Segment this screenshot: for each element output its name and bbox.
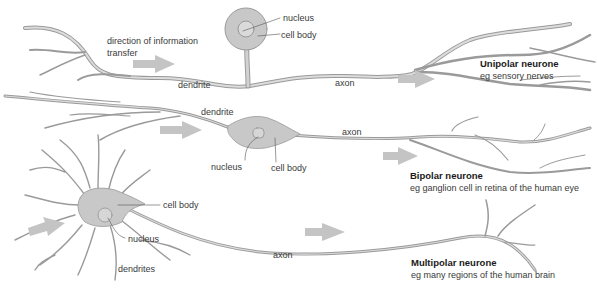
multipolar-cell-body	[78, 188, 145, 226]
label-bipolar-cell-body: cell body	[271, 163, 307, 173]
label-direction-line1: direction of information	[107, 36, 198, 46]
neurone-types-diagram: direction of information transfer nucleu…	[0, 0, 597, 294]
arrow-icon	[133, 55, 175, 73]
label-direction-line2: transfer	[107, 48, 138, 58]
arrow-icon	[160, 121, 202, 139]
label-unipolar-nucleus: nucleus	[283, 13, 314, 23]
bipolar-title: Bipolar neurone	[410, 170, 483, 181]
label-bipolar-dendrite: dendrite	[201, 107, 234, 117]
label-multipolar-axon: axon	[273, 250, 293, 260]
label-multipolar-cell-body: cell body	[163, 200, 199, 210]
label-unipolar-axon: axon	[335, 78, 355, 88]
arrow-icon	[305, 223, 345, 241]
unipolar-title: Unipolar neurone	[480, 58, 559, 69]
unipolar-nucleus	[238, 21, 254, 37]
label-bipolar-axon: axon	[342, 127, 362, 137]
label-unipolar-dendrite: dendrite	[178, 80, 211, 90]
label-bipolar-nucleus: nucleus	[211, 162, 242, 172]
multipolar-nucleus	[98, 208, 112, 222]
bipolar-nucleus	[253, 128, 264, 138]
unipolar-example: eg sensory nerves	[480, 71, 554, 81]
neurone-illustration	[0, 0, 597, 294]
arrow-icon	[383, 147, 418, 165]
multipolar-example: eg many regions of the human brain	[411, 270, 555, 280]
bipolar-example: eg ganglion cell in retina of the human …	[410, 183, 579, 193]
multipolar-title: Multipolar neurone	[411, 257, 497, 268]
label-multipolar-nucleus: nucleus	[128, 234, 159, 244]
label-unipolar-cell-body: cell body	[281, 30, 317, 40]
label-multipolar-dendrites: dendrites	[118, 264, 155, 274]
